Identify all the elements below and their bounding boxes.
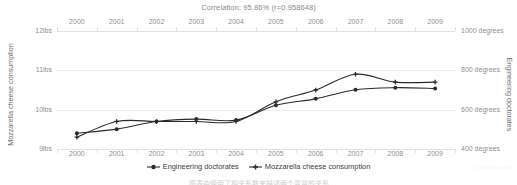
data-point-marker	[354, 88, 358, 92]
y-axis-tick-label: 9lbs	[6, 145, 52, 152]
data-point-marker	[313, 88, 318, 93]
x-axis-tick	[256, 149, 257, 153]
series-line	[77, 74, 435, 137]
x-axis-tick	[137, 149, 138, 153]
x-axis-tick	[455, 27, 456, 31]
figure-caption: 图表中使用了相关系数来描述两个变量的关系	[0, 179, 517, 185]
data-point-marker	[433, 86, 437, 90]
series-1	[75, 86, 437, 136]
legend: Engineering doctoratesMozzarella cheese …	[0, 162, 517, 171]
plus-marker-icon	[249, 163, 262, 171]
page-title: Correlation: 95.86% (r=0.958648)	[0, 3, 517, 12]
y-axis-tick-label: 1000 degrees	[461, 27, 517, 34]
y-axis-tick-label: 10lbs	[6, 106, 52, 113]
x-axis-tick	[296, 149, 297, 153]
x-axis-tick-label: 2009	[411, 150, 459, 157]
data-point-marker	[75, 131, 79, 135]
legend-item-label: Mozzarella cheese consumption	[265, 162, 371, 171]
data-point-marker	[433, 80, 438, 85]
x-axis-tick	[176, 149, 177, 153]
data-point-marker	[154, 119, 159, 124]
data-point-marker	[114, 119, 119, 124]
circle-marker-icon	[147, 163, 160, 171]
x-axis-tick	[375, 149, 376, 153]
data-point-marker	[393, 80, 398, 85]
plot-area	[57, 31, 455, 149]
series-2	[75, 72, 438, 140]
y-axis-tick-label: 800 degrees	[461, 66, 517, 73]
x-axis-tick	[415, 149, 416, 153]
data-point-marker	[274, 100, 279, 105]
legend-item[interactable]: Mozzarella cheese consumption	[249, 162, 371, 171]
x-axis-tick	[97, 149, 98, 153]
x-axis-tick	[336, 149, 337, 153]
series-line	[77, 88, 435, 134]
data-point-marker	[314, 97, 318, 101]
series-lines	[57, 31, 455, 149]
data-point-marker	[353, 72, 358, 77]
x-axis-tick	[455, 149, 456, 153]
legend-item-label: Engineering doctorates	[163, 162, 239, 171]
y-axis-tick-label: 400 degrees	[461, 145, 517, 152]
data-point-marker	[75, 135, 80, 140]
y-axis-tick-label: 11lbs	[6, 66, 52, 73]
data-point-marker	[393, 86, 397, 90]
y-axis-tick-label: 12lbs	[6, 27, 52, 34]
x-axis-tick-label: 2009	[411, 18, 459, 25]
y-axis-right-title: Engineering doctorates	[505, 33, 514, 157]
data-point-marker	[115, 127, 119, 131]
y-axis-left-title: Mozzarella cheese consumption	[6, 33, 15, 157]
y-axis-tick-label: 600 degrees	[461, 106, 517, 113]
correlation-chart: Correlation: 95.86% (r=0.958648) Mozzare…	[0, 0, 517, 185]
watermark: tylervigen.com	[475, 164, 513, 170]
legend-item[interactable]: Engineering doctorates	[147, 162, 239, 171]
x-axis-tick	[216, 149, 217, 153]
x-axis-tick	[57, 149, 58, 153]
